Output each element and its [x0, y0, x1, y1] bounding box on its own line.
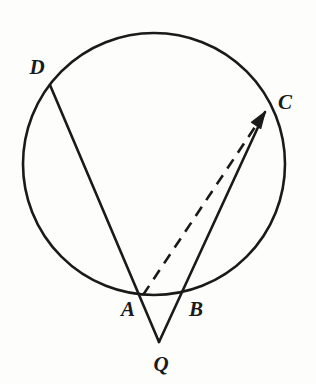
geometry-canvas	[0, 0, 316, 384]
geometry-diagram: D C A B Q	[0, 0, 316, 384]
segment-c-q	[159, 112, 265, 342]
arrowhead-icon	[252, 112, 265, 128]
point-label-a: A	[121, 299, 135, 320]
segment-a-c-dashed	[143, 119, 260, 295]
circle-shape	[23, 33, 285, 295]
point-label-d: D	[29, 57, 44, 78]
point-label-q: Q	[153, 354, 168, 375]
point-label-c: C	[278, 92, 292, 113]
point-label-b: B	[189, 299, 203, 320]
segment-d-q	[50, 85, 159, 342]
